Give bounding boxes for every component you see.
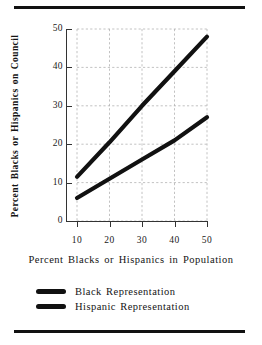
x-axis-tick xyxy=(77,221,78,227)
y-axis-title: Percent Blacks or Hispanics on Council xyxy=(10,34,20,217)
x-axis-tick xyxy=(175,221,176,227)
y-axis-title-container: Percent Blacks or Hispanics on Council xyxy=(6,18,24,233)
y-axis-tick-label: 20 xyxy=(53,139,63,149)
y-axis-tick xyxy=(66,106,72,107)
bottom-horizontal-rule xyxy=(14,330,245,333)
y-axis xyxy=(66,29,77,221)
x-axis-tick-labels: 1020304050 xyxy=(56,235,226,249)
chart-legend: Black RepresentationHispanic Representat… xyxy=(36,284,246,314)
legend-item-label: Black Representation xyxy=(75,286,175,298)
legend-item-label: Hispanic Representation xyxy=(75,301,190,313)
x-axis-tick xyxy=(207,221,208,227)
legend-item: Black Representation xyxy=(36,284,246,299)
y-axis-tick xyxy=(66,29,72,30)
y-axis-tick-label: 40 xyxy=(53,62,63,72)
y-axis-spine xyxy=(66,29,67,221)
line-swatch-hispanic-icon xyxy=(36,304,66,309)
x-axis-tick-label: 50 xyxy=(194,235,220,246)
series-line-1 xyxy=(77,37,207,177)
x-axis-tick-label: 40 xyxy=(162,235,188,246)
legend-item: Hispanic Representation xyxy=(36,299,246,314)
x-axis-tick xyxy=(142,221,143,227)
x-axis xyxy=(66,221,208,233)
x-axis-tick-label: 20 xyxy=(97,235,123,246)
x-axis-tick-label: 10 xyxy=(64,235,90,246)
y-axis-tick-label: 50 xyxy=(53,24,63,34)
top-horizontal-rule xyxy=(14,6,245,9)
line-swatch-black-icon xyxy=(36,289,66,294)
y-axis-tick-label: 10 xyxy=(53,178,63,188)
data-series-layer xyxy=(77,29,207,221)
x-axis-spine xyxy=(66,221,208,222)
x-axis-title: Percent Blacks or Hispanics in Populatio… xyxy=(0,253,262,266)
y-axis-tick-labels: 01020304050 xyxy=(36,29,63,221)
plot-area xyxy=(77,29,207,221)
y-axis-tick xyxy=(66,67,72,68)
y-axis-tick xyxy=(66,144,72,145)
y-axis-tick xyxy=(66,183,72,184)
x-axis-tick-label: 30 xyxy=(129,235,155,246)
y-axis-tick-label: 0 xyxy=(58,216,63,226)
figure-container: Percent Blacks or Hispanics on Council 0… xyxy=(0,0,262,345)
x-axis-tick xyxy=(110,221,111,227)
y-axis-tick-label: 30 xyxy=(53,101,63,111)
